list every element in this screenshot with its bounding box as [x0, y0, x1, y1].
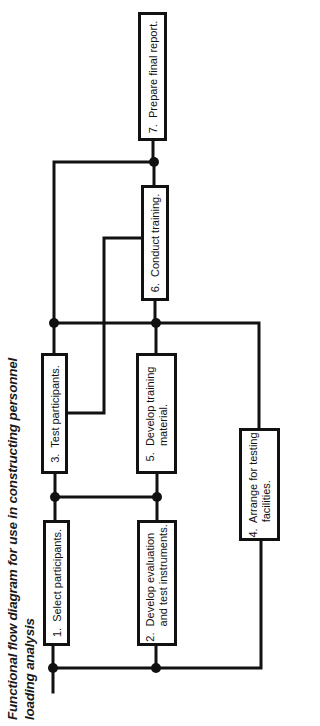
node-6-conduct-training: 6. Conduct training. — [141, 185, 169, 301]
node-3-test-participants: 3. Test participants. — [41, 353, 68, 474]
box3-to-box6 — [67, 238, 141, 413]
node-6-label: 6. Conduct training. — [149, 194, 162, 292]
node-1-select-participants: 1. Select participants. — [43, 520, 70, 646]
node-2-develop-evaluation: 2. Develop evaluation and test instrumen… — [137, 520, 177, 646]
node-2-label: 2. Develop evaluation and test instrumen… — [144, 524, 170, 641]
node-4-label: 4. Arrange for testing facilities. — [247, 432, 273, 537]
node-7-label: 7. Prepare final report. — [146, 20, 159, 133]
node-5-develop-training-material: 5. Develop training material. — [136, 353, 177, 474]
node-5-label: 5. Develop training material. — [144, 366, 170, 461]
node-1-label: 1. Select participants. — [50, 529, 63, 637]
node-4-arrange-facilities: 4. Arrange for testing facilities. — [239, 428, 280, 541]
node-3-label: 3. Test participants. — [48, 365, 61, 463]
node-7-prepare-final-report: 7. Prepare final report. — [138, 12, 167, 141]
